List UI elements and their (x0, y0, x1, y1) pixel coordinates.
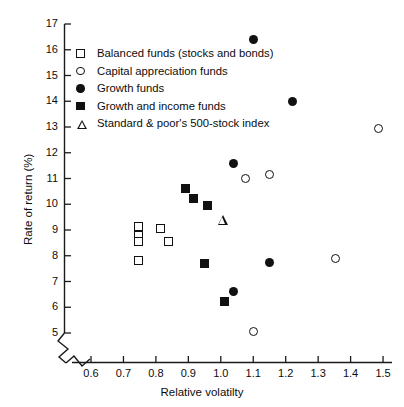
data-point (134, 222, 143, 231)
data-point (200, 259, 209, 268)
chart-axes (0, 0, 404, 407)
y-tick-label: 15 (32, 70, 58, 81)
data-point (229, 287, 238, 296)
y-tick-label: 7 (32, 276, 58, 287)
data-point (331, 254, 340, 263)
data-point (164, 237, 173, 246)
y-tick-label: 13 (32, 121, 58, 132)
y-tick-label: 17 (32, 18, 58, 29)
scatter-chart: 567891011121314151617 0.60.70.80.91.01.1… (0, 0, 404, 407)
x-tick-label: 1.2 (269, 368, 303, 379)
x-tick-label: 1.1 (236, 368, 270, 379)
data-point (218, 215, 228, 225)
data-point (288, 97, 297, 106)
x-tick-label: 1.5 (366, 368, 400, 379)
y-axis-title: Rate of return (%) (22, 154, 34, 245)
y-tick-label: 12 (32, 147, 58, 158)
open-circle-icon (76, 67, 88, 79)
x-tick-label: 0.8 (139, 368, 173, 379)
data-point (374, 124, 383, 133)
x-axis-break (66, 356, 90, 366)
legend-item-label: Capital appreciation funds (97, 65, 228, 77)
y-tick-label: 5 (32, 327, 58, 338)
x-tick-label: 1.0 (204, 368, 238, 379)
data-point (181, 184, 190, 193)
open-square-icon (76, 49, 88, 61)
data-point (220, 297, 229, 306)
data-point (249, 327, 258, 336)
x-tick-label: 1.4 (334, 368, 368, 379)
y-tick-marks (65, 24, 72, 333)
y-tick-label: 14 (32, 95, 58, 106)
x-tick-label: 0.9 (171, 368, 205, 379)
x-tick-marks (91, 356, 383, 363)
data-point (265, 170, 274, 179)
legend-item-label: Balanced funds (stocks and bonds) (97, 47, 273, 59)
y-tick-label: 9 (32, 224, 58, 235)
data-point (249, 35, 258, 44)
data-point (189, 194, 198, 203)
legend-item-label: Standard & poor's 500-stock index (97, 117, 269, 129)
open-triangle-icon (77, 120, 89, 132)
x-tick-label: 0.6 (74, 368, 108, 379)
y-tick-label: 16 (32, 44, 58, 55)
legend-item-label: Growth funds (97, 82, 164, 94)
data-point (241, 174, 250, 183)
data-point (134, 256, 143, 265)
y-axis-break (58, 333, 68, 363)
filled-square-icon (76, 102, 88, 114)
data-point (156, 224, 165, 233)
x-tick-label: 1.3 (301, 368, 335, 379)
y-tick-label: 6 (32, 301, 58, 312)
x-tick-label: 0.7 (106, 368, 140, 379)
filled-circle-icon (76, 84, 88, 96)
data-point (265, 258, 274, 267)
y-tick-label: 8 (32, 250, 58, 261)
y-tick-label: 10 (32, 198, 58, 209)
x-axis-title: Relative volatilty (0, 386, 404, 398)
data-point (229, 159, 238, 168)
y-tick-label: 11 (32, 173, 58, 184)
data-point (134, 237, 143, 246)
legend-item-label: Growth and income funds (97, 100, 226, 112)
data-point (203, 201, 212, 210)
